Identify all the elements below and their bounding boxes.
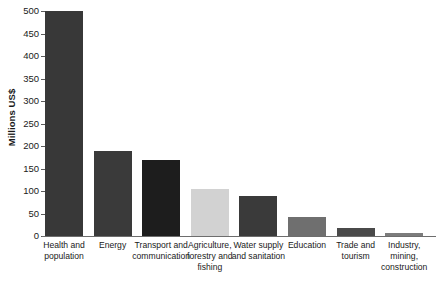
bar[interactable] (142, 160, 180, 236)
y-axis-tick-label: 50 (28, 208, 39, 220)
bar-slot (385, 11, 423, 236)
bar-slot (94, 11, 132, 236)
bar-slot (288, 11, 326, 236)
y-axis-tick-label: 450 (23, 28, 39, 40)
y-axis-tick-label: 300 (23, 95, 39, 107)
bar[interactable] (45, 11, 83, 236)
y-axis-tick-label: 100 (23, 185, 39, 197)
bar[interactable] (94, 151, 132, 237)
y-axis-tick-label: 500 (23, 5, 39, 17)
bar-slot (45, 11, 83, 236)
plot-area (45, 11, 435, 236)
x-axis-labels: Health and populationEnergyTransport and… (45, 240, 439, 286)
bar[interactable] (191, 189, 229, 236)
bar[interactable] (239, 196, 277, 236)
bar-chart: Millions US$ 050100150200250300350400450… (0, 0, 439, 288)
bar-slot (142, 11, 180, 236)
y-axis-tick-label: 150 (23, 163, 39, 175)
bar-slot (191, 11, 229, 236)
y-axis-tick-label: 400 (23, 50, 39, 62)
bar[interactable] (337, 228, 375, 236)
y-axis-tick-label: 200 (23, 140, 39, 152)
bar-slot (239, 11, 277, 236)
y-axis-tick-label: 250 (23, 118, 39, 130)
bar[interactable] (288, 217, 326, 236)
bar-slot (337, 11, 375, 236)
x-axis-category-label: Industry, mining, construction (373, 240, 435, 273)
y-axis-tick-label: 350 (23, 73, 39, 85)
x-axis-line (42, 236, 436, 237)
